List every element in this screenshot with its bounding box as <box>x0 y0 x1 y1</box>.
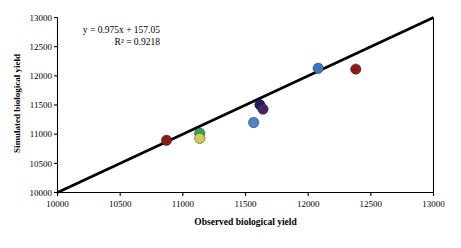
y-tick-label: 10500 <box>30 159 53 169</box>
y-tick-label: 12000 <box>30 71 53 81</box>
y-tick-label: 12500 <box>30 42 53 52</box>
data-point <box>248 117 258 127</box>
x-tick-label: 10500 <box>109 199 132 209</box>
data-point <box>351 64 361 74</box>
scatter-chart: 1000010500110001150012000125001300010000… <box>0 0 461 248</box>
y-tick-label: 13000 <box>30 13 53 23</box>
data-point <box>161 135 171 145</box>
data-point <box>258 104 268 114</box>
x-tick-label: 12000 <box>297 199 320 209</box>
x-tick-label: 11500 <box>234 199 257 209</box>
data-point <box>313 63 323 73</box>
y-axis-title: Simulated biological yield <box>12 54 22 153</box>
r-squared: R² = 0.9218 <box>115 37 161 47</box>
regression-equation: y = 0.975x + 157.05 <box>83 25 160 35</box>
x-axis-title: Observed biological yield <box>58 217 434 227</box>
x-tick-label: 12500 <box>360 199 383 209</box>
y-tick-label: 10000 <box>30 188 53 198</box>
y-tick-label: 11500 <box>30 100 53 110</box>
y-tick-label: 11000 <box>30 129 53 139</box>
data-point <box>195 133 205 143</box>
plot-canvas: 1000010500110001150012000125001300010000… <box>0 0 461 248</box>
x-tick-label: 11000 <box>172 199 195 209</box>
x-tick-label: 10000 <box>46 199 69 209</box>
x-tick-label: 13000 <box>422 199 445 209</box>
